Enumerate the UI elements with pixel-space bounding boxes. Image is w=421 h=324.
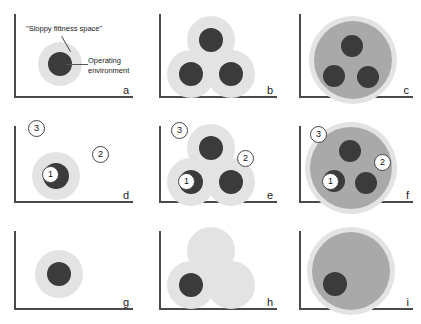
marker-one: 1 [178, 173, 195, 190]
y-axis [299, 231, 301, 310]
operating-environment-dot [219, 62, 243, 86]
panel-e: 3 2 1 e [145, 112, 285, 217]
operating-environment-dot [179, 62, 203, 86]
x-axis [14, 201, 133, 203]
operating-environment-dot [219, 170, 243, 194]
y-axis [14, 231, 16, 310]
panel-letter-f: f [406, 190, 409, 201]
marker-three: 3 [171, 122, 188, 139]
x-axis [14, 96, 133, 98]
panel-letter-a: a [123, 85, 129, 96]
panel-letter-e: e [267, 190, 273, 201]
x-axis [14, 308, 133, 310]
panel-d: 3 2 1 d [0, 112, 145, 217]
sloppy-fitness-space-label: "Sloppy fittness space" [26, 24, 102, 34]
y-axis [299, 14, 301, 98]
panel-letter-i: i [407, 297, 409, 308]
marker-one: 1 [322, 173, 339, 190]
panel-letter-g: g [123, 297, 129, 308]
marker-one: 1 [42, 166, 59, 183]
y-axis [159, 126, 161, 203]
panel-c: c [285, 0, 421, 112]
figure-panel-grid: "Sloppy fittness space" Operating enviro… [0, 0, 421, 324]
panel-i: i [285, 217, 421, 324]
operating-environment-label: Operating environment [88, 56, 129, 76]
y-axis [159, 14, 161, 98]
y-axis [299, 126, 301, 203]
operating-environment-dot [179, 273, 203, 297]
operating-environment-dot [323, 65, 345, 87]
operating-environment-dot [341, 35, 363, 57]
sloppy-fitness-space-halo [207, 261, 255, 309]
operating-environment-dot [357, 66, 379, 88]
merged-fitness-space [312, 232, 390, 310]
marker-two: 2 [374, 154, 391, 171]
marker-three: 3 [310, 126, 327, 143]
operating-environment-dot [339, 140, 361, 162]
panel-letter-c: c [404, 85, 410, 96]
operating-environment-dot [199, 28, 223, 52]
y-axis [159, 231, 161, 310]
merged-fitness-space [314, 21, 392, 99]
marker-two: 2 [237, 150, 254, 167]
x-axis [159, 308, 277, 310]
panel-letter-d: d [123, 190, 129, 201]
operating-environment-dot [323, 272, 347, 296]
y-axis [14, 14, 16, 98]
operating-environment-dot [47, 262, 71, 286]
operating-environment-leader-line [66, 64, 88, 65]
panel-b: b [145, 0, 285, 112]
x-axis [159, 96, 277, 98]
panel-f: 3 2 1 f [285, 112, 421, 217]
marker-two: 2 [92, 146, 109, 163]
marker-three: 3 [28, 120, 45, 137]
y-axis [14, 126, 16, 203]
panel-g: g [0, 217, 145, 324]
panel-letter-b: b [267, 85, 273, 96]
panel-a: "Sloppy fittness space" Operating enviro… [0, 0, 145, 112]
operating-environment-dot [355, 172, 377, 194]
panel-letter-h: h [267, 297, 273, 308]
operating-environment-dot [199, 136, 223, 160]
panel-h: h [145, 217, 285, 324]
